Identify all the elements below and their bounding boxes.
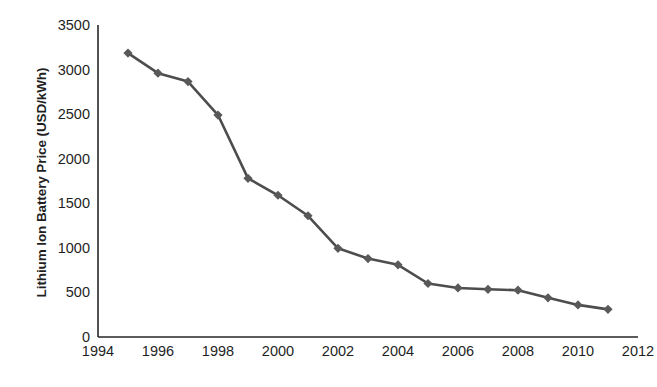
data-point-marker xyxy=(603,305,612,314)
plot-area xyxy=(0,0,657,387)
data-point-marker xyxy=(363,254,372,263)
data-series-line xyxy=(128,53,608,309)
chart-container: Lithium Ion Battery Price (USD/kWh) 0500… xyxy=(0,0,657,387)
data-point-marker xyxy=(573,300,582,309)
data-point-marker xyxy=(453,283,462,292)
data-point-marker xyxy=(483,285,492,294)
data-point-marker xyxy=(543,293,552,302)
data-point-markers xyxy=(123,48,612,313)
data-point-marker xyxy=(513,286,522,295)
